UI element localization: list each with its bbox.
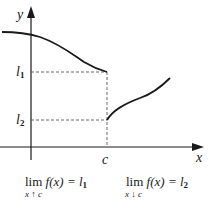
right-limit-expr: f(x) = l <box>147 174 184 189</box>
left-limit-sub: 1 <box>83 180 88 190</box>
left-limit-expr: f(x) = l <box>46 174 83 189</box>
l1-sub: 1 <box>20 70 25 80</box>
right-limit-word: lim <box>126 174 143 189</box>
left-limit-word: lim <box>25 174 42 189</box>
y-axis-arrow-icon <box>27 6 35 18</box>
right-limit-expression: lim f(x) = l2 <box>126 175 188 190</box>
y-axis-label: y <box>17 8 23 22</box>
l1-label: l1 <box>16 65 24 80</box>
l2-label: l2 <box>16 113 24 128</box>
right-limit-under: x ↓ c <box>125 189 142 199</box>
left-limit-under: x ↑ c <box>25 189 42 199</box>
left-limit-expression: lim f(x) = l1 <box>25 175 87 190</box>
curve-right-piece <box>107 78 170 120</box>
l2-sub: 2 <box>20 118 25 128</box>
c-tick-label: c <box>102 153 108 167</box>
x-axis-label: x <box>196 151 202 165</box>
right-limit-sub: 2 <box>184 180 189 190</box>
